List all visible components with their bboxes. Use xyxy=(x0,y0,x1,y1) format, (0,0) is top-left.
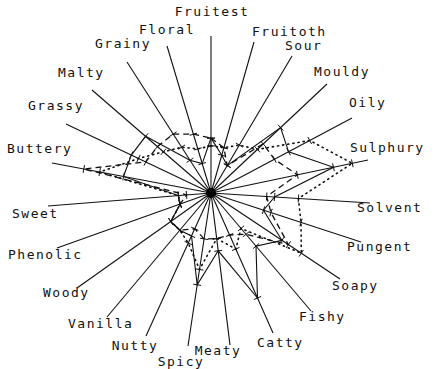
axis-label-catty: Catty xyxy=(257,335,304,350)
axis-label-malty: Malty xyxy=(58,65,105,80)
vertex-tick xyxy=(298,195,299,203)
spoke-sour xyxy=(211,56,292,193)
axis-label-sour: Sour xyxy=(285,38,322,53)
spoke-sulphury xyxy=(211,160,368,193)
axis-label-oily: Oily xyxy=(349,95,386,110)
vertex-tick xyxy=(186,191,187,199)
vertex-tick xyxy=(193,284,201,285)
spoke-floral xyxy=(167,46,211,193)
center-hub xyxy=(206,188,216,198)
axis-label-grainy: Grainy xyxy=(95,36,151,51)
spoke-buttery xyxy=(52,163,211,193)
axis-label-solvent: Solvent xyxy=(357,200,422,215)
axis-labels: FruitestFruitothSourMouldyOilySulphurySo… xyxy=(7,4,425,369)
axis-label-fruitest: Fruitest xyxy=(175,4,250,19)
spoke-nutty xyxy=(146,193,211,336)
vertex-tick xyxy=(273,156,277,163)
axis-label-spicy: Spicy xyxy=(158,354,205,369)
spoke-fishy xyxy=(211,193,311,311)
axis-label-nutty: Nutty xyxy=(112,338,159,353)
axis-label-floral: Floral xyxy=(139,22,195,37)
axis-label-soapy: Soapy xyxy=(332,278,379,293)
axis-label-woody: Woody xyxy=(43,285,90,300)
axis-label-fishy: Fishy xyxy=(299,309,346,324)
axis-label-grassy: Grassy xyxy=(28,98,84,113)
axis-label-mouldy: Mouldy xyxy=(314,64,370,79)
axis-label-phenolic: Phenolic xyxy=(8,247,83,262)
axis-label-vanilla: Vanilla xyxy=(68,316,133,331)
axis-label-sweet: Sweet xyxy=(12,206,59,221)
axis-label-buttery: Buttery xyxy=(7,141,72,156)
vertex-tick xyxy=(83,165,84,173)
vertex-tick xyxy=(274,193,275,201)
spoke-solvent xyxy=(211,193,370,203)
spoke-fruitoth xyxy=(211,42,254,193)
vertex-tick xyxy=(266,193,267,201)
vertex-tick xyxy=(214,250,222,251)
spoke-mouldy xyxy=(211,84,327,193)
spoke-malty xyxy=(92,90,211,193)
spoke-woody xyxy=(77,193,211,288)
axis-label-pungent: Pungent xyxy=(347,239,412,254)
vertex-tick xyxy=(178,192,179,200)
vertex-tick xyxy=(200,238,208,239)
vertex-tick xyxy=(99,168,100,176)
flavour-profile-spider-chart: FruitestFruitothSourMouldyOilySulphurySo… xyxy=(0,0,435,369)
axis-label-fruitoth: Fruitoth xyxy=(252,24,327,39)
axis-label-sulphury: Sulphury xyxy=(350,140,425,155)
vertex-tick xyxy=(196,269,204,270)
